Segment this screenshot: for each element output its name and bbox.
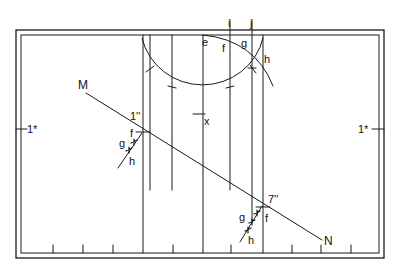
- label-1star-right: 1*: [358, 123, 369, 135]
- label-x: x: [204, 115, 210, 127]
- label-e: e: [202, 36, 208, 48]
- label-f-right: f: [265, 212, 269, 224]
- label-1-double-prime: 1'': [130, 110, 140, 122]
- label-f-top: f: [222, 42, 226, 54]
- label-i: i: [228, 17, 230, 29]
- label-7-double-prime: 7'': [268, 193, 278, 205]
- label-h-left: h: [129, 155, 135, 167]
- label-j: j: [249, 17, 252, 29]
- label-h-right: h: [248, 234, 254, 246]
- label-g-left: g: [119, 137, 125, 149]
- frame: [16, 30, 384, 258]
- diagram-canvas: M N 1'' 7'' 1* 1* i j e f g h x f g h f …: [0, 0, 398, 275]
- label-f-left: f: [130, 127, 134, 139]
- label-1star-left: 1*: [27, 123, 38, 135]
- label-h-top: h: [264, 53, 270, 65]
- bottom-scale-ticks: [53, 245, 351, 253]
- label-N: N: [324, 234, 333, 248]
- label-M: M: [78, 78, 88, 92]
- label-g-right: g: [239, 211, 245, 223]
- label-g-top: g: [241, 37, 247, 49]
